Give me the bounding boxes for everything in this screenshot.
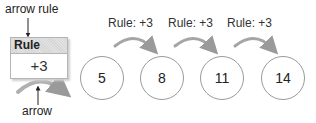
arc-arrow-icon — [235, 38, 272, 48]
rule-label: Rule: +3 — [168, 16, 213, 30]
rule-label: Rule: +3 — [227, 16, 272, 30]
sequence-term: 11 — [200, 56, 244, 100]
arc-arrow-icon — [175, 38, 212, 48]
rule-box: Rule +3 — [10, 37, 68, 79]
callout-arrow: arrow — [22, 104, 52, 118]
callout-arrow-rule: arrow rule — [5, 2, 58, 16]
rule-value: +3 — [11, 54, 67, 78]
sequence-term: 8 — [140, 56, 184, 100]
rule-label: Rule: +3 — [108, 16, 153, 30]
arc-arrow-icon — [115, 38, 152, 48]
rule-header: Rule — [11, 38, 67, 54]
rule-arrow-icon — [18, 81, 62, 92]
sequence-term: 5 — [80, 56, 124, 100]
sequence-term: 14 — [261, 56, 305, 100]
